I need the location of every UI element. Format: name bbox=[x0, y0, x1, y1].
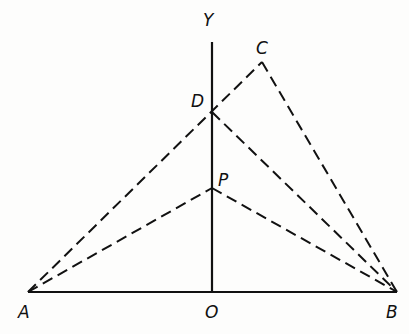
label-P: P bbox=[218, 170, 229, 190]
geometry-diagram: A B O Y C D P bbox=[0, 0, 409, 334]
solid-lines bbox=[28, 42, 397, 292]
dashed-line-AP bbox=[28, 188, 212, 292]
label-Y: Y bbox=[203, 10, 215, 30]
label-C: C bbox=[256, 38, 268, 58]
diagram-canvas: A B O Y C D P bbox=[0, 0, 409, 334]
label-D: D bbox=[191, 91, 204, 111]
dashed-line-CB bbox=[262, 62, 397, 292]
dashed-line-DB bbox=[212, 112, 397, 292]
label-O: O bbox=[205, 302, 218, 322]
label-B: B bbox=[386, 302, 398, 322]
label-A: A bbox=[17, 302, 30, 322]
dashed-line-PB bbox=[212, 188, 397, 292]
point-labels: A B O Y C D P bbox=[17, 10, 398, 322]
